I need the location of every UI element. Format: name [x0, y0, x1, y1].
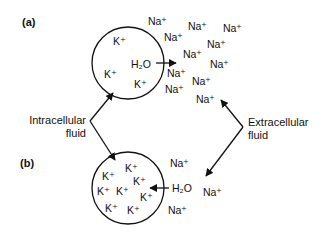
k-ion: K⁺ — [113, 35, 126, 47]
na-ion: Na⁺ — [207, 38, 226, 50]
pointer-arrow-to-cell-b — [90, 121, 115, 160]
k-ion: K⁺ — [140, 191, 153, 203]
na-ion: Na⁺ — [170, 157, 189, 169]
intracellular-callout: Intracellular fluid — [29, 93, 115, 160]
extracellular-callout: Extracellular fluid — [206, 100, 309, 176]
osmosis-diagram: (a) (b) K⁺ K⁺ K⁺ H₂O Na⁺ Na⁺ Na⁺ Na⁺ Na⁺… — [0, 0, 333, 239]
na-ion: Na⁺ — [223, 22, 242, 34]
cell-membrane-a — [92, 27, 164, 99]
panel-a-label: (a) — [22, 16, 36, 28]
na-ion: Na⁺ — [192, 75, 211, 87]
k-ion: K⁺ — [125, 162, 138, 174]
na-ion: Na⁺ — [168, 204, 187, 216]
cell-b: K⁺ K⁺ K⁺ K⁺ K⁺ K⁺ K⁺ K⁺ H₂O Na⁺ Na⁺ Na⁺ — [92, 152, 222, 224]
na-ion: Na⁺ — [165, 83, 184, 95]
panel-b-label: (b) — [20, 157, 34, 169]
pointer-arrow-to-outside-b — [206, 127, 243, 176]
water-label: H₂O — [172, 182, 192, 194]
k-ion: K⁺ — [104, 68, 117, 80]
k-ion: K⁺ — [133, 175, 146, 187]
intracellular-label-line2: fluid — [66, 127, 86, 139]
k-ion: K⁺ — [97, 185, 110, 197]
na-ion: Na⁺ — [188, 20, 207, 32]
na-ion: Na⁺ — [167, 67, 186, 79]
na-ion: Na⁺ — [164, 31, 183, 43]
cell-a: K⁺ K⁺ K⁺ H₂O Na⁺ Na⁺ Na⁺ Na⁺ Na⁺ Na⁺ Na⁺… — [92, 15, 242, 105]
k-ion: K⁺ — [116, 185, 129, 197]
na-ion: Na⁺ — [203, 186, 222, 198]
k-ion: K⁺ — [127, 204, 140, 216]
intracellular-label-line1: Intracellular — [29, 114, 86, 126]
k-ion: K⁺ — [102, 170, 115, 182]
na-ion: Na⁺ — [183, 48, 202, 60]
k-ion: K⁺ — [105, 202, 118, 214]
pointer-arrow-to-outside-a — [221, 100, 243, 127]
extracellular-label-line1: Extracellular — [248, 116, 309, 128]
k-ion: K⁺ — [134, 78, 147, 90]
water-label: H₂O — [131, 58, 151, 70]
pointer-arrow-to-cell-a — [90, 93, 113, 121]
na-ion: Na⁺ — [210, 58, 229, 70]
na-ion: Na⁺ — [148, 15, 167, 27]
na-ion: Na⁺ — [196, 93, 215, 105]
extracellular-label-line2: fluid — [248, 129, 268, 141]
